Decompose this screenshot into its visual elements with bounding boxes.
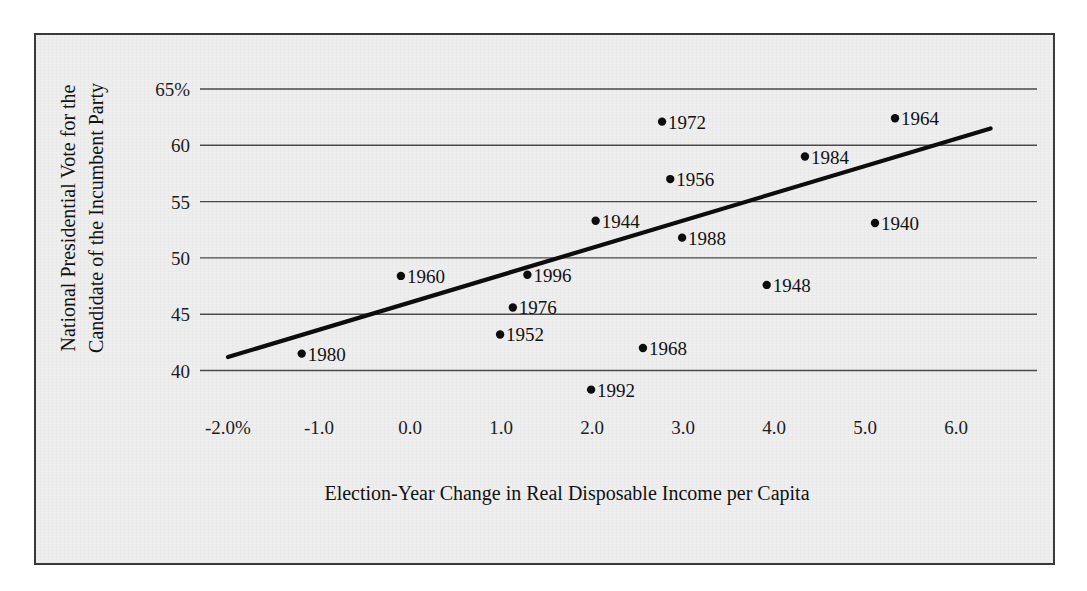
trendline-group bbox=[228, 128, 991, 357]
data-point-label: 1944 bbox=[602, 211, 641, 232]
scatter-plot: 65%6055504540 -2.0%-1.00.01.02.03.04.05.… bbox=[0, 0, 1087, 591]
data-point-marker bbox=[678, 233, 686, 241]
y-axis-title-line-1: National Presidential Vote for the bbox=[57, 84, 79, 351]
data-point-label: 1996 bbox=[533, 265, 571, 286]
data-point-label: 1972 bbox=[668, 112, 706, 133]
x-axis-tick-label: -2.0% bbox=[205, 417, 251, 438]
figure-container: 65%6055504540 -2.0%-1.00.01.02.03.04.05.… bbox=[0, 0, 1087, 591]
data-point-label: 1948 bbox=[773, 275, 811, 296]
regression-line bbox=[228, 128, 991, 357]
y-axis-tick-label: 40 bbox=[171, 361, 190, 382]
data-point-marker bbox=[591, 217, 599, 225]
x-axis-title: Election-Year Change in Real Disposable … bbox=[324, 482, 809, 505]
data-point-label: 1940 bbox=[881, 213, 919, 234]
data-point-label: 1952 bbox=[506, 324, 544, 345]
y-axis-tick-label: 65% bbox=[155, 79, 190, 100]
data-point-marker bbox=[298, 349, 306, 357]
x-axis-tick-label: 6.0 bbox=[944, 417, 968, 438]
data-point-marker bbox=[509, 303, 517, 311]
y-axis-tick-label: 60 bbox=[171, 135, 190, 156]
data-point-label: 1964 bbox=[901, 108, 940, 129]
data-point-group: 1980196019521976199619921944196819721956… bbox=[298, 108, 940, 400]
data-point-label: 1980 bbox=[308, 344, 346, 365]
x-axis-tick-label: 5.0 bbox=[853, 417, 877, 438]
x-axis-tick-label: 0.0 bbox=[398, 417, 422, 438]
data-point-marker bbox=[666, 175, 674, 183]
data-point-label: 1992 bbox=[597, 380, 635, 401]
y-axis-tick-label: 45 bbox=[171, 304, 190, 325]
data-point-marker bbox=[801, 152, 809, 160]
data-point-marker bbox=[523, 271, 531, 279]
x-axis-tick-label-group: -2.0%-1.00.01.02.03.04.05.06.0 bbox=[205, 417, 968, 438]
data-point-marker bbox=[658, 117, 666, 125]
data-point-marker bbox=[496, 330, 504, 338]
data-point-marker bbox=[397, 272, 405, 280]
data-point-label: 1960 bbox=[407, 266, 445, 287]
y-axis-tick-label-group: 65%6055504540 bbox=[155, 79, 190, 382]
data-point-label: 1968 bbox=[649, 338, 687, 359]
y-axis-tick-label: 55 bbox=[171, 192, 190, 213]
data-point-label: 1976 bbox=[519, 297, 557, 318]
y-axis-tick-label: 50 bbox=[171, 248, 190, 269]
x-axis-tick-label: 1.0 bbox=[489, 417, 513, 438]
x-axis-tick-label: 2.0 bbox=[580, 417, 604, 438]
x-axis-tick-label: 3.0 bbox=[671, 417, 695, 438]
y-axis-title-line-2: Candidate of the Incumbent Party bbox=[85, 83, 108, 353]
x-axis-tick-label: 4.0 bbox=[762, 417, 786, 438]
data-point-marker bbox=[763, 281, 771, 289]
data-point-marker bbox=[871, 219, 879, 227]
data-point-marker bbox=[639, 344, 647, 352]
data-point-label: 1988 bbox=[688, 228, 726, 249]
data-point-marker bbox=[891, 114, 899, 122]
data-point-marker bbox=[587, 385, 595, 393]
x-axis-tick-label: -1.0 bbox=[304, 417, 334, 438]
data-point-label: 1984 bbox=[811, 147, 850, 168]
data-point-label: 1956 bbox=[676, 169, 714, 190]
